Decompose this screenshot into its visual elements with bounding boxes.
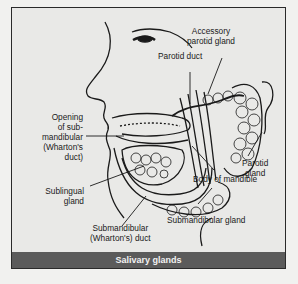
label-body-of-mandible: Body of mandible — [193, 174, 257, 184]
label-accessory-parotid-gland: Accessory parotid gland — [187, 26, 235, 46]
label-submandibular-duct: Submandibular (Wharton's) duct — [90, 223, 151, 243]
label-submandibular-gland: Submandibular gland — [167, 215, 245, 225]
label-opening-submandibular-duct: Opening of sub- mandibular (Wharton's du… — [29, 112, 83, 162]
figure-frame: Accessory parotid gland Parotid duct Ope… — [11, 7, 286, 269]
label-parotid-duct: Parotid duct — [158, 51, 202, 61]
label-sublingual-gland: Sublingual gland — [34, 186, 84, 206]
figure-caption: Salivary glands — [12, 252, 285, 268]
